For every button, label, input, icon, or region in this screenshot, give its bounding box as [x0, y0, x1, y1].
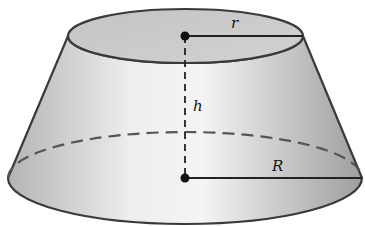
frustum-diagram: r h R	[0, 0, 365, 226]
label-R: R	[271, 157, 283, 175]
label-h: h	[193, 97, 203, 115]
top-center-dot	[181, 32, 190, 41]
bottom-center-dot	[181, 174, 190, 183]
label-r: r	[231, 14, 239, 32]
